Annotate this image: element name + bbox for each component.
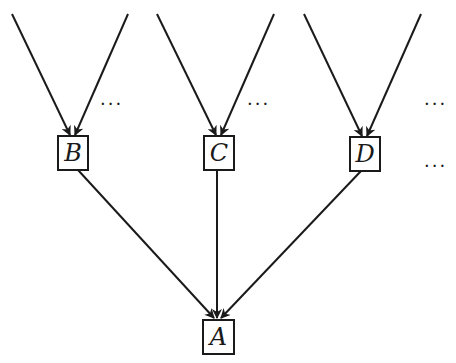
node-label: D	[354, 140, 374, 168]
edge-top-3-to-C	[157, 14, 216, 135]
ellipsis: ···	[100, 93, 123, 114]
node-B: B	[58, 136, 88, 170]
node-label: C	[210, 139, 228, 167]
node-label: A	[208, 323, 227, 351]
edge-top-4-to-C	[221, 14, 274, 135]
tree-diagram: BCDA ············	[0, 0, 456, 363]
edge-top-6-to-D	[367, 14, 421, 136]
ellipsis: ···	[424, 93, 447, 114]
ellipsis: ···	[424, 155, 447, 176]
node-label: B	[63, 139, 82, 167]
edge-D-to-A	[221, 171, 361, 318]
edge-top-2-to-B	[75, 14, 128, 135]
node-D: D	[350, 137, 380, 171]
ellipses-group: ············	[100, 93, 447, 176]
nodes-group: BCDA	[58, 136, 380, 354]
edge-top-1-to-B	[12, 14, 70, 135]
ellipsis: ···	[247, 93, 270, 114]
node-C: C	[204, 136, 234, 170]
node-A: A	[203, 320, 234, 354]
edge-top-5-to-D	[304, 14, 362, 136]
edge-B-to-A	[78, 170, 214, 318]
